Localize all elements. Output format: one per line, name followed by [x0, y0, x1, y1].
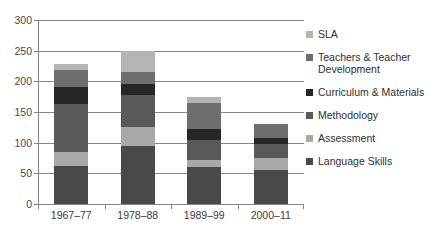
bar-1967–77 — [54, 64, 88, 204]
x-axis-tick — [38, 205, 39, 209]
legend-swatch-icon — [306, 135, 313, 142]
bar-segment — [54, 87, 88, 104]
bar-segment — [187, 103, 221, 129]
x-tick-label: 1989–99 — [169, 210, 239, 221]
y-axis-tick — [34, 81, 38, 82]
bar-1978–88 — [121, 51, 155, 204]
y-axis-tick-labels: 300250200150100500 — [0, 0, 36, 238]
x-axis-tick-labels: 1967–771978–881989–992000–11 — [38, 210, 304, 230]
y-axis-tick — [34, 143, 38, 144]
legend-label: SLA — [318, 28, 338, 40]
y-tick-label: 300 — [0, 15, 32, 26]
legend-label: Teachers & Teacher Development — [318, 51, 434, 75]
y-tick-label: 250 — [0, 45, 32, 56]
bar-segment — [54, 64, 88, 70]
x-axis-tick — [171, 205, 172, 209]
x-axis-tick — [238, 205, 239, 209]
bar-segment — [54, 104, 88, 152]
chart-legend: SLATeachers & Teacher DevelopmentCurricu… — [306, 28, 438, 178]
y-tick-label: 50 — [0, 168, 32, 179]
bar-segment — [54, 70, 88, 87]
legend-label: Methodology — [318, 109, 378, 121]
x-axis-tick — [303, 205, 304, 209]
legend-item-methodology: Methodology — [306, 109, 438, 121]
bar-segment — [187, 129, 221, 139]
bar-segment — [187, 160, 221, 167]
y-tick-label: 200 — [0, 76, 32, 87]
bar-segment — [121, 95, 155, 128]
bar-segment — [187, 167, 221, 204]
stacked-bar-chart: 300250200150100500 1967–771978–881989–99… — [0, 0, 438, 238]
bar-segment — [121, 51, 155, 72]
y-axis-tick — [34, 20, 38, 21]
plot-area — [38, 20, 304, 205]
legend-label: Language Skills — [318, 155, 392, 167]
bar-segment — [254, 124, 288, 137]
bar-2000–11 — [254, 124, 288, 204]
gridline — [38, 51, 304, 52]
bar-segment — [187, 97, 221, 103]
bar-segment — [54, 152, 88, 166]
gridline — [38, 20, 304, 21]
bar-segment — [54, 166, 88, 204]
legend-swatch-icon — [306, 89, 313, 96]
y-tick-label: 0 — [0, 199, 32, 210]
bar-segment — [121, 127, 155, 145]
legend-item-assessment: Assessment — [306, 132, 438, 144]
legend-swatch-icon — [306, 158, 313, 165]
legend-item-sla: SLA — [306, 28, 438, 40]
y-tick-label: 150 — [0, 107, 32, 118]
bar-segment — [121, 146, 155, 204]
x-tick-label: 2000–11 — [236, 210, 306, 221]
bar-segment — [254, 158, 288, 170]
bar-segment — [121, 84, 155, 95]
y-axis-tick — [34, 112, 38, 113]
bar-segment — [254, 170, 288, 204]
legend-label: Assessment — [318, 132, 375, 144]
legend-swatch-icon — [306, 54, 313, 61]
legend-item-language-skills: Language Skills — [306, 155, 438, 167]
x-axis-tick — [105, 205, 106, 209]
legend-swatch-icon — [306, 31, 313, 38]
legend-item-teachers-teacher-development: Teachers & Teacher Development — [306, 51, 438, 75]
x-tick-label: 1967–77 — [36, 210, 106, 221]
bar-segment — [187, 140, 221, 160]
legend-swatch-icon — [306, 112, 313, 119]
y-tick-label: 100 — [0, 137, 32, 148]
y-axis-tick — [34, 51, 38, 52]
bar-segment — [254, 144, 288, 158]
legend-label: Curriculum & Materials — [318, 86, 424, 98]
bar-1989–99 — [187, 97, 221, 204]
bar-segment — [254, 138, 288, 144]
legend-item-curriculum-materials: Curriculum & Materials — [306, 86, 438, 98]
x-tick-label: 1978–88 — [103, 210, 173, 221]
y-axis-tick — [34, 173, 38, 174]
bar-segment — [121, 72, 155, 84]
